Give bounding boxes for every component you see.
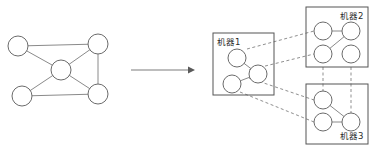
machine3-node-c — [342, 113, 360, 131]
arrow-head-icon — [188, 67, 195, 74]
graph-partitioning-diagram: 机器1 机器2 机器3 — [0, 0, 379, 149]
cross-edge-m1-m2-a — [247, 31, 314, 49]
edge-n1-n2 — [18, 44, 98, 46]
machine2-node-a — [314, 22, 332, 40]
machine1-group[interactable]: 机器1 — [213, 33, 274, 95]
transform-arrow — [131, 67, 195, 74]
machine1-node-c — [223, 75, 241, 93]
machine2-node-d — [342, 45, 360, 63]
edge-n4-n5 — [22, 94, 98, 96]
machine1-node-a — [228, 49, 246, 67]
graph-node-n2 — [88, 34, 108, 54]
machine2-node-b — [342, 22, 360, 40]
machine2-label: 机器2 — [340, 11, 363, 21]
diagram-canvas: 机器1 机器2 机器3 — [0, 0, 379, 149]
graph-node-n3 — [51, 60, 71, 80]
machine3-group[interactable]: 机器3 — [306, 84, 368, 144]
machine3-node-b — [314, 113, 332, 131]
machine2-group[interactable]: 机器2 — [306, 7, 368, 67]
machine3-label: 机器3 — [340, 131, 363, 141]
graph-node-n1 — [8, 36, 28, 56]
graph-node-n4 — [12, 86, 32, 106]
graph-node-n5 — [88, 84, 108, 104]
machine2-node-c — [314, 45, 332, 63]
machine1-node-b — [249, 65, 267, 83]
source-graph-group — [8, 34, 108, 106]
machine3-node-a — [314, 91, 332, 109]
machine1-label: 机器1 — [217, 37, 240, 47]
